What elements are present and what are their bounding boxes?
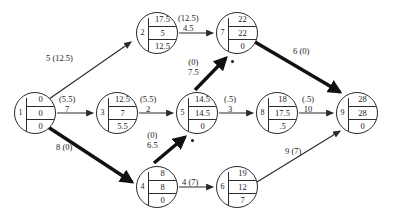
edge-label-5-to-7: (0) 7.5 (188, 58, 199, 78)
node-cell-slack: 0 (348, 120, 377, 133)
edge-label-5-to-8: (.5) 3 (224, 95, 236, 115)
node-cell-slack: 0 (26, 120, 55, 133)
edge-label-2-to-7: (12.5) 4.5 (178, 14, 199, 34)
node-cell-latest: 22 (228, 26, 257, 41)
edge-label-duration: 7 (59, 105, 75, 115)
network-node-8[interactable]: 8 18 17.5 .5 (256, 92, 298, 134)
edge-label-7-to-9: 6 (0) (293, 47, 309, 57)
edge-label-text: 9 (7) (285, 146, 301, 156)
node-cell-earliest: 19 (228, 167, 257, 180)
edge-label-4-to-6: 4 (7) (182, 178, 198, 188)
edge-dot-marker-5-to-7 (231, 60, 234, 63)
node-id-label: 8 (257, 93, 268, 133)
node-cell-latest: 7 (108, 106, 137, 121)
edge-label-4-to-5: (0) 6.5 (147, 131, 158, 151)
edge-5-to-7[interactable] (195, 58, 226, 90)
edge-label-duration: 2 (140, 105, 156, 115)
node-cell-slack: 0 (228, 40, 257, 53)
node-cell-latest: 28 (348, 106, 377, 121)
node-cell-stack: 18 17.5 .5 (268, 93, 297, 133)
network-node-1[interactable]: 1 0 0 0 (14, 92, 56, 134)
edge-dot-marker-7-to-9 (334, 85, 337, 88)
edge-label-1-to-2: 5 (12.5) (46, 54, 73, 64)
node-cell-latest: 12 (228, 180, 257, 195)
node-cell-stack: 0 0 0 (26, 93, 55, 133)
edge-label-duration: 10 (302, 105, 314, 115)
node-cell-stack: 12.5 7 5.5 (108, 93, 137, 133)
node-id-label: 5 (177, 93, 188, 133)
network-node-6[interactable]: 6 19 12 7 (216, 166, 258, 208)
network-node-5[interactable]: 5 14.5 14.5 0 (176, 92, 218, 134)
node-id-label: 3 (97, 93, 108, 133)
node-id-label: 7 (217, 13, 228, 53)
edge-label-duration: 3 (224, 105, 236, 115)
edge-1-to-2[interactable] (49, 42, 131, 99)
node-cell-stack: 17.5 5 12.5 (148, 13, 177, 53)
node-id-label: 1 (15, 93, 26, 133)
network-node-3[interactable]: 3 12.5 7 5.5 (96, 92, 138, 134)
network-node-9[interactable]: 9 28 28 0 (336, 92, 378, 134)
node-cell-stack: 14.5 14.5 0 (188, 93, 217, 133)
edge-label-1-to-4: 8 (0) (56, 143, 72, 153)
node-cell-latest: 17.5 (268, 106, 297, 121)
edge-label-duration: 6.5 (147, 141, 158, 151)
node-cell-slack: .5 (268, 120, 297, 133)
node-cell-earliest: 28 (348, 93, 377, 106)
edge-label-text: 4 (7) (182, 177, 198, 187)
edge-1-to-4[interactable] (48, 127, 132, 182)
edge-4-to-5[interactable] (154, 137, 185, 163)
node-cell-latest: 8 (148, 180, 177, 195)
node-id-label: 9 (337, 93, 348, 133)
node-cell-stack: 8 8 0 (148, 167, 177, 207)
edge-label-1-to-3: (5.5) 7 (59, 95, 75, 115)
network-node-4[interactable]: 4 8 8 0 (136, 166, 178, 208)
node-cell-earliest: 22 (228, 13, 257, 26)
node-cell-slack: 0 (148, 194, 177, 207)
node-cell-stack: 19 12 7 (228, 167, 257, 207)
network-node-2[interactable]: 2 17.5 5 12.5 (136, 12, 178, 54)
node-cell-latest: 14.5 (188, 106, 217, 121)
node-cell-earliest: 8 (148, 167, 177, 180)
network-diagram: 1 0 0 0 2 17.5 5 12.5 3 12.5 7 5.5 (0, 0, 393, 222)
node-cell-latest: 5 (148, 26, 177, 41)
node-cell-slack: 0 (188, 120, 217, 133)
node-cell-stack: 22 22 0 (228, 13, 257, 53)
edge-label-text: 8 (0) (56, 142, 72, 152)
node-cell-earliest: 0 (26, 93, 55, 106)
node-cell-earliest: 18 (268, 93, 297, 106)
node-id-label: 2 (137, 13, 148, 53)
network-node-7[interactable]: 7 22 22 0 (216, 12, 258, 54)
node-cell-slack: 7 (228, 194, 257, 207)
node-cell-earliest: 17.5 (148, 13, 177, 26)
node-cell-slack: 5.5 (108, 120, 137, 133)
node-cell-earliest: 12.5 (108, 93, 137, 106)
edge-label-8-to-9: (.5) 10 (302, 95, 314, 115)
node-cell-latest: 0 (26, 106, 55, 121)
edge-label-duration: 7.5 (188, 68, 199, 78)
edge-label-3-to-5: (5.5) 2 (140, 95, 156, 115)
edge-label-text: 5 (12.5) (46, 53, 73, 63)
node-cell-stack: 28 28 0 (348, 93, 377, 133)
node-cell-slack: 12.5 (148, 40, 177, 53)
node-cell-earliest: 14.5 (188, 93, 217, 106)
edge-dot-marker-4-to-5 (191, 139, 194, 142)
node-id-label: 6 (217, 167, 228, 207)
edge-label-text: 6 (0) (293, 46, 309, 56)
edge-label-6-to-9: 9 (7) (285, 147, 301, 157)
node-id-label: 4 (137, 167, 148, 207)
edge-label-duration: 4.5 (178, 24, 199, 34)
